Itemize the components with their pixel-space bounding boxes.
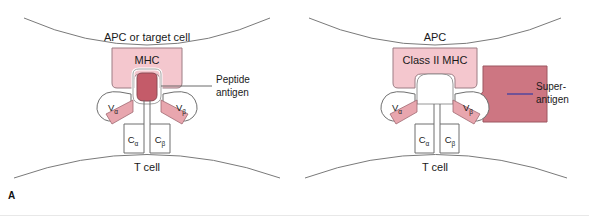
panel-b-graphic: Class II MHC Vα Vβ Cα Cβ APC: [295, 0, 589, 216]
panel-b: Class II MHC Vα Vβ Cα Cβ APC: [295, 0, 589, 216]
class-ii-mhc-label: Class II MHC: [403, 54, 468, 66]
peptide-antigen: [137, 73, 157, 101]
superantigen-callout-line2: antigen: [536, 94, 569, 105]
empty-mhc-groove: [417, 74, 453, 104]
apc-label: APC: [424, 31, 447, 43]
superantigen-callout-line1: Super-: [536, 81, 566, 92]
mhc-label: MHC: [134, 54, 159, 66]
t-cell-label: T cell: [134, 161, 160, 173]
figure-bottom-divider: [0, 215, 589, 216]
t-cell-label: T cell: [422, 161, 448, 173]
apc-label: APC or target cell: [104, 31, 190, 43]
figure-tcr-superantigen: MHC Vα Vβ Cα Cβ: [0, 0, 589, 216]
peptide-callout-line1: Peptide: [216, 74, 250, 85]
panel-a-letter: A: [8, 190, 15, 201]
panel-a: MHC Vα Vβ Cα Cβ: [0, 0, 294, 216]
panel-a-graphic: MHC Vα Vβ Cα Cβ: [0, 0, 294, 216]
peptide-callout-line2: antigen: [216, 87, 249, 98]
